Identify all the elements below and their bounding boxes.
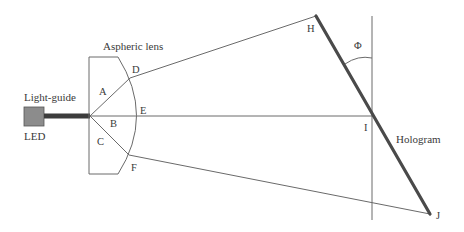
point-c-label: C bbox=[97, 136, 104, 147]
hologram-plate bbox=[316, 16, 430, 214]
point-h-label: H bbox=[307, 23, 315, 34]
led-box bbox=[24, 107, 44, 126]
point-b-label: B bbox=[110, 118, 117, 129]
point-f-label: F bbox=[131, 162, 137, 173]
light-guide-bar bbox=[44, 114, 90, 119]
lens-label: Aspheric lens bbox=[103, 40, 163, 52]
ray-a bbox=[90, 78, 130, 116]
point-a-label: A bbox=[99, 86, 107, 97]
angle-arc bbox=[345, 57, 372, 64]
optical-diagram: Light-guide LED Aspheric lens Hologram A… bbox=[0, 0, 464, 232]
point-e-label: E bbox=[140, 105, 146, 116]
point-j-label: J bbox=[436, 210, 440, 221]
ray-f-j bbox=[129, 155, 430, 214]
led-label: LED bbox=[24, 130, 45, 142]
angle-phi-label: Φ bbox=[354, 40, 362, 51]
light-guide-label: Light-guide bbox=[24, 91, 76, 103]
point-d-label: D bbox=[132, 64, 140, 75]
point-i-label: I bbox=[364, 122, 368, 133]
hologram-label: Hologram bbox=[396, 133, 441, 145]
